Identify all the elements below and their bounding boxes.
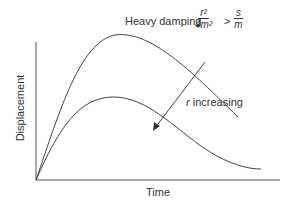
- y-axis-label: Displacement: [14, 72, 26, 144]
- heavy-damping-label: Heavy damping: [125, 15, 201, 27]
- formula-r-squared: r²: [198, 7, 209, 19]
- r-increasing-label: r increasing: [186, 96, 243, 108]
- formula-right-fraction: s m: [234, 7, 243, 30]
- formula-4m-squared: 4m²: [195, 19, 212, 30]
- increasing-text: increasing: [190, 96, 243, 108]
- formula-left-fraction: r² 4m²: [195, 7, 212, 30]
- formula-greater-than: >: [224, 15, 230, 27]
- formula-m: m: [234, 19, 242, 30]
- formula-s: s: [234, 7, 243, 19]
- r-increasing-arrow: [155, 62, 205, 128]
- lower-curve: [36, 97, 261, 180]
- damping-chart: [0, 0, 295, 207]
- x-axis-label: Time: [146, 186, 170, 198]
